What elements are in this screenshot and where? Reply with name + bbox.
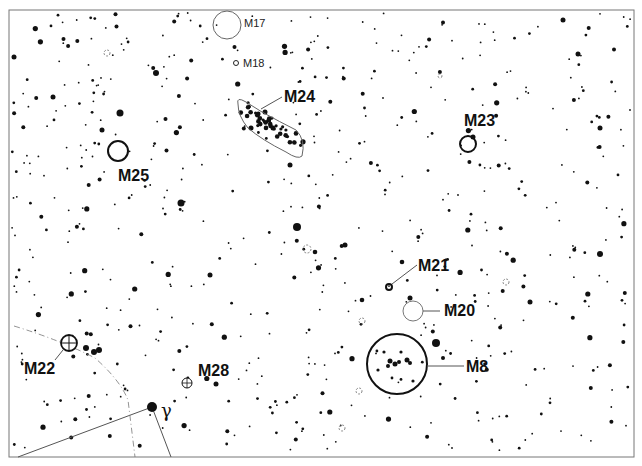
m28-label: M28 xyxy=(198,362,229,379)
star xyxy=(266,312,269,315)
star xyxy=(531,433,533,435)
star xyxy=(21,125,25,129)
star xyxy=(412,109,417,114)
star xyxy=(78,82,80,84)
star xyxy=(38,39,43,44)
star xyxy=(479,54,481,56)
star xyxy=(361,92,365,96)
star xyxy=(93,17,96,20)
star xyxy=(248,362,250,364)
star xyxy=(505,252,509,256)
star xyxy=(189,58,193,62)
star xyxy=(114,204,116,206)
star xyxy=(32,256,34,258)
star xyxy=(317,35,319,37)
star xyxy=(149,184,151,186)
star xyxy=(626,386,629,389)
star xyxy=(59,399,62,402)
star xyxy=(585,180,589,184)
star xyxy=(192,323,194,325)
star xyxy=(69,291,74,296)
bright-star xyxy=(432,339,440,347)
star xyxy=(596,115,599,118)
star xyxy=(202,119,204,121)
star xyxy=(332,174,334,176)
star xyxy=(16,196,18,198)
star xyxy=(55,110,57,112)
star xyxy=(415,121,417,123)
star xyxy=(267,181,270,184)
star xyxy=(225,443,228,446)
star xyxy=(451,40,453,42)
star xyxy=(560,430,562,432)
star xyxy=(436,289,439,292)
bright-star xyxy=(597,251,603,257)
star xyxy=(549,301,551,303)
star xyxy=(92,156,94,158)
star xyxy=(177,349,181,353)
star xyxy=(483,142,485,144)
star xyxy=(299,144,302,147)
star xyxy=(408,361,412,365)
star xyxy=(427,37,431,41)
star xyxy=(296,394,298,396)
star xyxy=(81,157,83,159)
star xyxy=(102,93,105,96)
m25-label: M25 xyxy=(118,167,149,184)
star xyxy=(320,264,322,266)
star xyxy=(498,416,500,418)
star xyxy=(283,178,285,180)
star xyxy=(290,183,292,185)
star xyxy=(228,242,230,244)
star xyxy=(458,270,463,275)
star xyxy=(274,400,277,403)
star xyxy=(383,13,385,15)
star xyxy=(473,294,476,297)
star xyxy=(139,232,143,236)
star xyxy=(590,121,593,124)
star xyxy=(362,21,364,23)
star xyxy=(89,16,92,19)
star xyxy=(172,266,174,268)
star xyxy=(153,145,155,147)
star xyxy=(15,276,18,279)
star xyxy=(425,45,428,48)
star xyxy=(342,77,346,81)
star xyxy=(392,50,394,52)
star xyxy=(420,334,422,336)
star xyxy=(60,421,62,423)
star xyxy=(89,416,91,418)
star xyxy=(326,194,329,197)
star xyxy=(363,107,366,110)
star xyxy=(629,18,631,20)
star xyxy=(40,425,45,430)
m20-label: M20 xyxy=(444,302,475,319)
star xyxy=(132,286,137,291)
star xyxy=(369,161,373,165)
star xyxy=(302,207,304,209)
star xyxy=(243,237,245,239)
star xyxy=(257,131,260,134)
star xyxy=(599,13,601,15)
star xyxy=(457,194,459,196)
star xyxy=(492,418,494,420)
star xyxy=(21,353,23,355)
star xyxy=(447,193,449,195)
star xyxy=(222,335,227,340)
star xyxy=(341,346,344,349)
star xyxy=(552,108,554,110)
bright-star xyxy=(12,55,17,60)
m28-globular-icon[interactable] xyxy=(182,378,192,388)
star xyxy=(318,197,320,199)
star xyxy=(114,12,118,16)
star xyxy=(224,114,227,117)
gamma-sgr-star[interactable] xyxy=(147,402,157,412)
bright-star xyxy=(561,18,566,23)
star xyxy=(518,447,521,450)
star xyxy=(327,409,332,414)
bright-star xyxy=(343,243,348,248)
m22-globular-icon[interactable] xyxy=(61,335,77,351)
star xyxy=(187,12,189,14)
star xyxy=(320,110,322,112)
star xyxy=(263,120,268,125)
